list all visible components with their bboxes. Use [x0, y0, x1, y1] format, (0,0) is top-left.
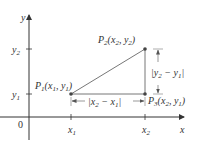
y1-tick-label: y1: [11, 89, 20, 102]
point-p1: [69, 92, 73, 96]
p1-label: P1(x1, y1): [34, 80, 73, 93]
vertical-distance-label: |y2 − y1|: [151, 67, 184, 80]
x2-tick-label: x2: [141, 124, 150, 137]
p3-label: P3(x2, y1): [147, 95, 186, 108]
hypotenuse-p1-p2: [71, 49, 145, 94]
p2-label: P2(x2, y2): [97, 34, 136, 47]
x-axis-label: x: [179, 124, 185, 135]
origin-label: 0: [18, 119, 23, 130]
point-p3: [143, 92, 147, 96]
y2-tick-label: y2: [11, 44, 20, 57]
y-axis-label: y: [20, 12, 26, 23]
x1-tick-label: x1: [67, 124, 76, 137]
distance-diagram: y x 0 y2 y1 x1 x2 P2(x2, y2) P1(x1, y1) …: [0, 0, 200, 146]
horizontal-distance-label: |x2 − x1|: [88, 96, 121, 109]
diagram-canvas: y x 0 y2 y1 x1 x2 P2(x2, y2) P1(x1, y1) …: [0, 0, 200, 146]
point-p2: [143, 47, 147, 51]
